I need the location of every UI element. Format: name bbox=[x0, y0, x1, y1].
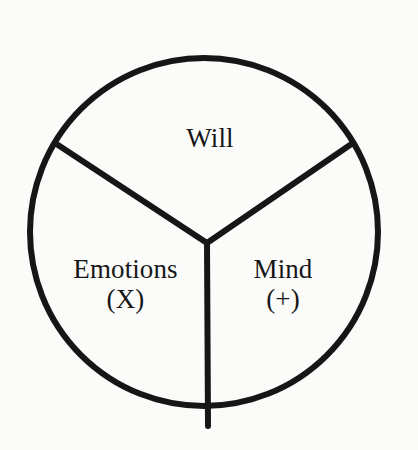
tripartite-circle-svg bbox=[0, 0, 418, 450]
outer-circle bbox=[30, 58, 378, 406]
segment-symbol-mind: (+) bbox=[222, 285, 344, 314]
segment-label-mind-text: Mind bbox=[222, 255, 344, 284]
segment-label-will: Will bbox=[130, 124, 290, 153]
segment-label-emotions: Emotions (X) bbox=[48, 255, 203, 313]
diagram-canvas: Will Emotions (X) Mind (+) bbox=[0, 0, 418, 450]
segment-label-emotions-text: Emotions bbox=[48, 255, 203, 284]
segment-label-mind: Mind (+) bbox=[222, 255, 344, 313]
segment-symbol-emotions: (X) bbox=[48, 285, 203, 314]
divider-spoke-bottom bbox=[207, 243, 208, 426]
segment-label-will-text: Will bbox=[130, 124, 290, 153]
